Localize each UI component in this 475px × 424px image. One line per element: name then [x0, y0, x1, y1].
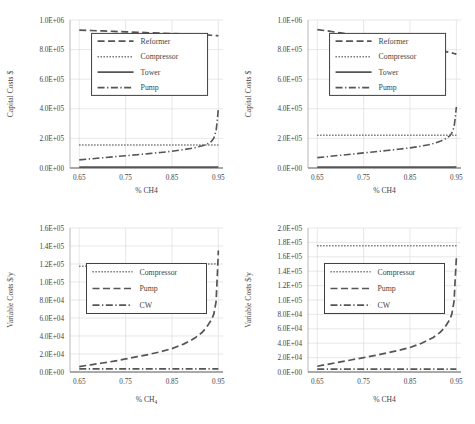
- legend-label-compressor: Compressor: [140, 268, 178, 277]
- y-tick-label: 1.0E+05: [277, 297, 302, 305]
- y-tick-label: 6.0E+05: [39, 76, 64, 84]
- x-tick-label: 0.65: [73, 174, 86, 182]
- figure-four-panel-cost-charts: 0.0E+002.0E+054.0E+056.0E+058.0E+051.0E+…: [0, 0, 475, 424]
- y-tick-label: 1.4E+05: [277, 268, 302, 276]
- x-tick-label: 0.95: [212, 378, 225, 386]
- chart-panel-bottom-left: 0.0E+002.0E+044.0E+046.0E+048.0E+041.0E+…: [0, 212, 237, 424]
- x-tick-label: 0.65: [73, 378, 86, 386]
- y-tick-label: 2.0E+05: [277, 135, 302, 143]
- legend-label-tower: Tower: [141, 68, 161, 77]
- y-axis-title: Capital Costs $: [244, 71, 253, 118]
- x-tick-label: 0.95: [450, 174, 463, 182]
- y-tick-label: 8.0E+05: [277, 46, 302, 54]
- legend: CompressorPumpCW: [87, 263, 207, 313]
- y-tick-label: 1.6E+05: [277, 253, 302, 261]
- y-tick-label: 8.0E+05: [39, 46, 64, 54]
- y-tick-label: 2.0E+04: [39, 351, 64, 359]
- x-tick-label: 0.75: [357, 174, 370, 182]
- y-tick-label: 4.0E+04: [277, 340, 302, 348]
- y-axis-title: Variable Costs $/y: [6, 272, 15, 328]
- legend-label-pump: Pump: [378, 284, 396, 293]
- y-tick-label: 4.0E+05: [277, 105, 302, 113]
- y-tick-label: 0.0E+00: [39, 369, 64, 377]
- x-tick-label: 0.95: [450, 378, 463, 386]
- x-tick-label: 0.75: [119, 174, 132, 182]
- chart-panel-bottom-right: 0.0E+002.0E+044.0E+046.0E+048.0E+041.0E+…: [238, 212, 475, 424]
- x-axis-title: % CH4: [135, 186, 158, 195]
- x-tick-label: 0.75: [119, 378, 132, 386]
- x-tick-label: 0.65: [311, 378, 324, 386]
- legend-label-reformer: Reformer: [379, 37, 409, 46]
- y-tick-label: 1.0E+06: [277, 17, 302, 25]
- chart-panel-top-right: 0.0E+002.0E+054.0E+056.0E+058.0E+051.0E+…: [238, 2, 475, 210]
- x-tick-label: 0.95: [212, 174, 225, 182]
- legend: ReformerCompressorTowerPump: [330, 33, 446, 95]
- y-tick-label: 2.0E+05: [277, 225, 302, 233]
- legend-label-reformer: Reformer: [141, 37, 171, 46]
- y-tick-label: 8.0E+04: [39, 297, 64, 305]
- y-tick-label: 4.0E+04: [39, 333, 64, 341]
- y-tick-label: 1.6E+05: [39, 225, 64, 233]
- legend-label-tower: Tower: [379, 68, 399, 77]
- legend-label-compressor: Compressor: [141, 52, 179, 61]
- legend-label-compressor: Compressor: [378, 268, 416, 277]
- y-tick-label: 0.0E+00: [277, 369, 302, 377]
- y-tick-label: 6.0E+04: [39, 315, 64, 323]
- x-tick-label: 0.85: [404, 378, 417, 386]
- x-tick-label: 0.75: [357, 378, 370, 386]
- x-tick-label: 0.85: [166, 174, 179, 182]
- legend-label-cw: CW: [140, 301, 153, 310]
- x-tick-label: 0.85: [404, 174, 417, 182]
- y-tick-label: 0.0E+00: [277, 165, 302, 173]
- y-tick-label: 6.0E+04: [277, 325, 302, 333]
- y-tick-label: 1.8E+05: [277, 239, 302, 247]
- series-line-pump: [317, 107, 456, 158]
- y-tick-label: 1.2E+05: [277, 282, 302, 290]
- y-tick-label: 6.0E+05: [277, 76, 302, 84]
- y-tick-label: 1.0E+06: [39, 17, 64, 25]
- y-tick-label: 2.0E+05: [39, 135, 64, 143]
- y-axis-title: Capital Costs $: [6, 71, 15, 118]
- legend-label-pump: Pump: [140, 284, 158, 293]
- legend: CompressorPumpCW: [325, 263, 445, 313]
- x-axis-title: % CH4: [373, 395, 396, 404]
- series-line-pump: [79, 108, 218, 160]
- y-axis-title: Variable Costs $/y: [244, 272, 253, 328]
- legend-label-compressor: Compressor: [379, 52, 417, 61]
- y-tick-label: 1.2E+05: [39, 261, 64, 269]
- x-tick-label: 0.65: [311, 174, 324, 182]
- legend-label-pump: Pump: [141, 83, 159, 92]
- y-tick-label: 0.0E+00: [39, 165, 64, 173]
- y-tick-label: 2.0E+04: [277, 354, 302, 362]
- x-axis-title: % CH4: [136, 395, 158, 405]
- legend-label-pump: Pump: [379, 83, 397, 92]
- legend-label-cw: CW: [378, 301, 391, 310]
- x-tick-label: 0.85: [166, 378, 179, 386]
- chart-panel-top-left: 0.0E+002.0E+054.0E+056.0E+058.0E+051.0E+…: [0, 2, 237, 210]
- y-tick-label: 8.0E+04: [277, 311, 302, 319]
- y-tick-label: 4.0E+05: [39, 105, 64, 113]
- x-axis-title: % CH4: [373, 186, 396, 195]
- legend: ReformerCompressorTowerPump: [92, 33, 208, 95]
- y-tick-label: 1.0E+05: [39, 279, 64, 287]
- y-tick-label: 1.4E+05: [39, 243, 64, 251]
